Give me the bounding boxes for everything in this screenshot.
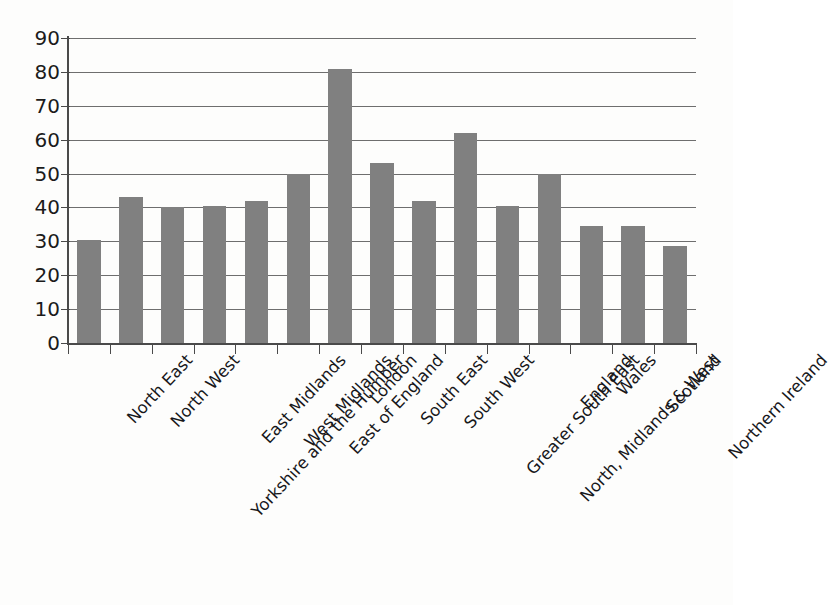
bar xyxy=(203,206,226,343)
x-axis-category-labels: North EastNorth WestYorkshire and the Hu… xyxy=(68,352,696,532)
y-tick-label-70: 70 xyxy=(18,96,60,116)
bar xyxy=(77,240,100,343)
bar xyxy=(161,207,184,343)
y-tick-mark-0 xyxy=(61,343,70,344)
y-tick-label-80: 80 xyxy=(18,62,60,82)
bar xyxy=(119,197,142,343)
bar xyxy=(580,226,603,343)
bar xyxy=(454,133,477,343)
bar xyxy=(663,246,686,343)
x-tick-mark xyxy=(696,345,697,354)
bar xyxy=(621,226,644,343)
bar xyxy=(245,201,268,343)
y-tick-label-30: 30 xyxy=(18,231,60,251)
x-axis-label: Northern Ireland xyxy=(726,352,831,462)
y-tick-label-60: 60 xyxy=(18,130,60,150)
y-tick-label-0: 0 xyxy=(18,333,60,353)
y-tick-label-50: 50 xyxy=(18,164,60,184)
bar xyxy=(328,69,351,344)
bar xyxy=(496,206,519,343)
y-axis-tick-labels: 0102030405060708090 xyxy=(8,38,60,343)
y-tick-label-20: 20 xyxy=(18,265,60,285)
bar xyxy=(287,174,310,343)
bar xyxy=(412,201,435,343)
x-axis-label: Scotland xyxy=(664,352,725,416)
y-tick-label-90: 90 xyxy=(18,28,60,48)
y-tick-label-40: 40 xyxy=(18,197,60,217)
y-tick-label-10: 10 xyxy=(18,299,60,319)
bars-layer xyxy=(68,38,696,343)
bar xyxy=(370,163,393,343)
bar xyxy=(538,174,561,343)
